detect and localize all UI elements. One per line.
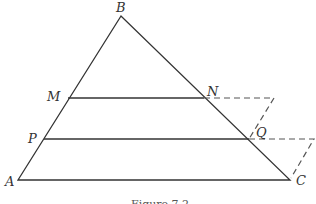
label-m: M	[46, 89, 61, 104]
label-c: C	[296, 173, 306, 188]
label-b: B	[115, 0, 126, 15]
geometry-figure: B M N P Q A C Figure 7.2	[0, 0, 316, 204]
label-q: Q	[256, 125, 267, 140]
figure-caption: Figure 7.2	[131, 198, 189, 204]
label-p: P	[27, 131, 37, 146]
label-a: A	[4, 174, 14, 189]
label-n: N	[206, 84, 219, 99]
